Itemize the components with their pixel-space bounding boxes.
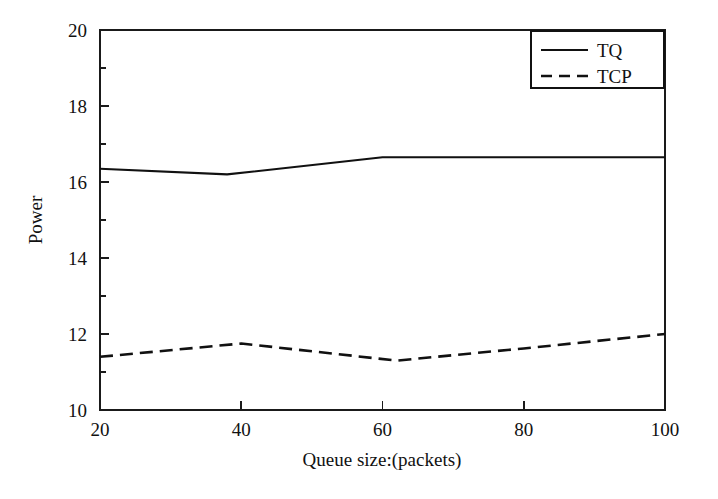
x-tick-label-20: 20 [91, 419, 110, 440]
legend[interactable]: TQ TCP [531, 31, 664, 88]
chart-figure: 101214161820 20406080100 Power Queue siz… [0, 0, 718, 499]
x-tick-label-60: 60 [373, 419, 392, 440]
x-tick-label-100: 100 [651, 419, 680, 440]
power-vs-queue-size-line-chart: 101214161820 20406080100 Power Queue siz… [0, 0, 718, 499]
legend-label-tcp: TCP [597, 66, 632, 87]
series-line-tcp [100, 334, 665, 361]
y-tick-label-20: 20 [68, 20, 87, 41]
y-tick-label-18: 18 [68, 96, 87, 117]
x-tick-label-40: 40 [232, 419, 251, 440]
y-axis-minor-ticks [100, 68, 106, 372]
x-axis-tick-labels: 20406080100 [91, 419, 680, 440]
x-axis-label: Queue size:(packets) [303, 449, 462, 471]
y-tick-label-10: 10 [68, 400, 87, 421]
y-tick-label-12: 12 [68, 324, 87, 345]
y-axis-tick-labels: 101214161820 [68, 20, 88, 421]
legend-label-tq: TQ [597, 40, 623, 61]
y-tick-label-14: 14 [68, 248, 88, 269]
data-series-layer [100, 157, 665, 360]
y-axis-label: Power [25, 195, 46, 244]
series-line-tq [100, 157, 665, 174]
x-axis-ticks [100, 401, 665, 410]
x-tick-label-80: 80 [514, 419, 533, 440]
y-tick-label-16: 16 [68, 172, 87, 193]
